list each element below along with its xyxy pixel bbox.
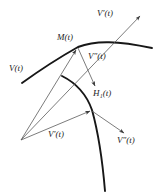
diagram-canvas bbox=[0, 0, 155, 192]
vector-v-prime-top bbox=[21, 16, 140, 140]
label-point-m-t: M(t) bbox=[57, 33, 73, 42]
vector-v-t-left bbox=[21, 50, 76, 140]
upper-trajectory-curve bbox=[22, 42, 152, 83]
label-v-prime-top: V′(t) bbox=[97, 9, 113, 18]
label-v-double-prime-mid: V″(t) bbox=[88, 52, 106, 61]
vector-field-diagram: V′(t) M(t) V″(t) V(t) H₁(t) V′(t) V″(t) bbox=[0, 0, 155, 192]
label-v-double-prime-bottom: V″(t) bbox=[117, 136, 135, 145]
label-v-prime-bottom: V′(t) bbox=[48, 130, 64, 139]
label-v-t-left: V(t) bbox=[9, 64, 23, 73]
label-point-h1-t: H₁(t) bbox=[93, 89, 111, 98]
